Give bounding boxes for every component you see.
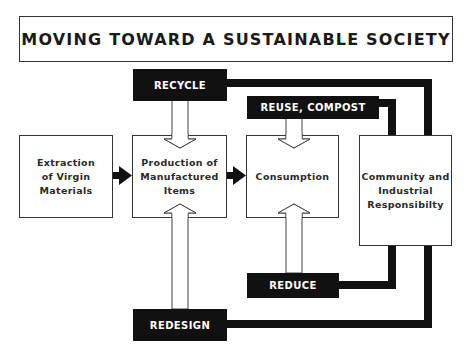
node-community: Community and Industrial Responsibilty	[359, 135, 452, 246]
diagram-title: MOVING TOWARD A SUSTAINABLE SOCIETY	[21, 30, 450, 49]
action-reuse-compost-label: REUSE, COMPOST	[260, 102, 365, 113]
node-extraction-label: Extraction of Virgin Materials	[37, 156, 95, 198]
action-redesign: REDESIGN	[133, 309, 227, 341]
action-reduce: REDUCE	[247, 273, 339, 298]
line-community-reuse	[378, 103, 392, 135]
action-recycle-label: RECYCLE	[154, 80, 206, 91]
node-extraction: Extraction of Virgin Materials	[19, 135, 113, 218]
arrow-extraction-to-production	[112, 166, 132, 185]
action-recycle: RECYCLE	[133, 69, 227, 101]
hollow-arrow-redesign-to-production	[164, 204, 196, 309]
arrow-production-to-consumption	[226, 166, 246, 185]
node-consumption: Consumption	[246, 135, 339, 218]
line-community-reduce	[338, 245, 392, 285]
node-production-label: Production of Manufactured Items	[140, 156, 218, 198]
title-box: MOVING TOWARD A SUSTAINABLE SOCIETY	[19, 16, 453, 62]
action-reduce-label: REDUCE	[269, 280, 317, 291]
node-production: Production of Manufactured Items	[132, 135, 227, 218]
action-reuse-compost: REUSE, COMPOST	[247, 96, 379, 119]
node-consumption-label: Consumption	[256, 170, 330, 184]
node-community-label: Community and Industrial Responsibilty	[362, 170, 450, 212]
action-redesign-label: REDESIGN	[150, 320, 210, 331]
